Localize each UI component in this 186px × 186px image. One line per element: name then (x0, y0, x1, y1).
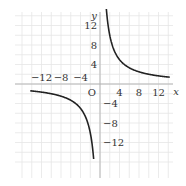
y-tick-label: −4 (103, 98, 118, 109)
y-tick-label: 4 (91, 59, 97, 70)
curve-branch-negative (30, 91, 93, 159)
x-tick-label: 12 (152, 87, 165, 98)
x-tick-label: −12 (31, 72, 52, 83)
x-tick-label: 8 (136, 87, 142, 98)
x-axis-label: x (173, 86, 179, 97)
curve-branch-positive (106, 9, 169, 77)
y-tick-label: −8 (103, 118, 118, 129)
y-tick-label: −12 (103, 137, 124, 148)
x-tick-label: 4 (116, 87, 122, 98)
x-tick-label: −4 (73, 72, 88, 83)
y-tick-label: 12 (84, 20, 97, 31)
hyperbola-chart: −12−8−44812 1284−4−8−12 x y O (0, 0, 186, 186)
x-tick-label: −8 (54, 72, 69, 83)
y-tick-label: 8 (91, 40, 97, 51)
origin-label: O (88, 87, 96, 98)
y-axis-label: y (90, 10, 97, 21)
